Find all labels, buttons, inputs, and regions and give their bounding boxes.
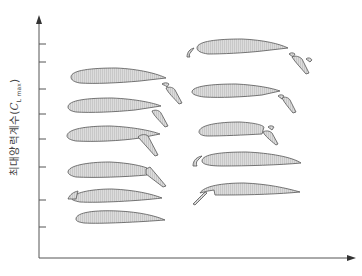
fowler-flap-element <box>263 131 278 145</box>
airfoil-plain <box>76 211 165 224</box>
triple-slot-slat <box>187 48 194 57</box>
airfoil-fowler-main <box>199 122 264 136</box>
double-slot-flap <box>166 87 182 104</box>
airfoil-krueger-main <box>200 183 300 195</box>
le-flap-element <box>68 191 78 199</box>
plain-flap-element <box>138 135 158 156</box>
triple-slot-vane-2 <box>306 58 312 62</box>
y-axis-label-suffix: ) <box>8 79 20 83</box>
airfoil-le-flap <box>72 189 162 202</box>
airfoil-split-flap-main <box>68 162 147 177</box>
y-axis-label-text: 최대양력계수( <box>8 111 20 177</box>
airfoil-slotted-slat-main <box>192 84 280 97</box>
airfoil-slotted-flap-main <box>68 98 161 112</box>
airfoil-triple-slotted-main <box>197 39 288 54</box>
slotted-slat-flap <box>282 97 296 113</box>
y-axis-label-symbol: C <box>8 102 20 110</box>
double-slot-vane <box>162 83 169 87</box>
airfoil-double-slotted-main <box>71 68 166 83</box>
fowler-vane <box>268 126 274 130</box>
y-ticks <box>39 44 46 227</box>
y-axis-arrow-icon <box>36 15 42 24</box>
slotted-flap-element <box>152 110 168 127</box>
split-flap-element <box>146 167 166 187</box>
y-axis-label-subscript: L max <box>15 83 22 102</box>
airfoil-diagram <box>0 0 362 276</box>
x-axis-arrow-icon <box>347 255 356 261</box>
airfoil-slat-main <box>202 152 301 166</box>
y-axis-label: 최대양력계수(CL max) <box>6 79 22 176</box>
diagram-canvas: 최대양력계수(CL max) <box>0 0 362 276</box>
slat-element <box>193 156 202 166</box>
krueger-flap-element <box>193 192 207 205</box>
